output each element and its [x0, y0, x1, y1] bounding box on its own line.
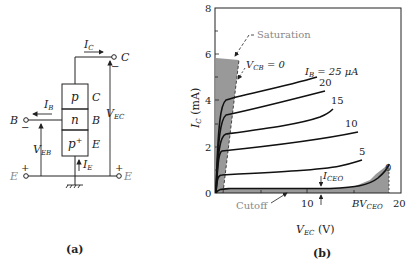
collector-terminal — [112, 55, 117, 60]
iceo-label: ICEO — [322, 170, 343, 183]
emitter-right-terminal — [117, 174, 122, 179]
vcb-zero-label: VCB = 0 — [246, 59, 285, 72]
ground-icon — [66, 185, 83, 188]
cutoff-label: Cutoff — [236, 200, 268, 211]
label-ib-0: 0 — [385, 162, 391, 173]
panel-b-chart: IB = 25 μA 20 15 10 5 0 Saturation VCB =… — [189, 3, 406, 260]
figure: p n p+ C B E C IC − B − IB E E + + IE — [0, 0, 408, 268]
region-e-label: E — [91, 138, 100, 151]
y-axis-label: IC (mA) — [189, 88, 203, 129]
ib-label: IB — [43, 98, 54, 112]
ticks — [215, 31, 354, 193]
panel-a-circuit: p n p+ C B E C IC − B − IB E E + + IE — [9, 38, 132, 256]
collector-label: C — [121, 51, 130, 64]
emitter-left-terminal — [24, 174, 29, 179]
emitter-left-plus: + — [21, 162, 29, 173]
p-label: p — [71, 90, 79, 104]
panel-b-label: (b) — [313, 247, 331, 260]
p-plus-label: p+ — [68, 136, 82, 151]
vec-label: VEC — [106, 107, 125, 121]
region-b-label: B — [91, 114, 100, 127]
panel-a-label: (a) — [66, 243, 84, 256]
label-ib-15: 15 — [331, 95, 344, 106]
collector-minus: − — [111, 61, 119, 72]
ie-label: IE — [82, 158, 92, 172]
label-ib-10: 10 — [345, 118, 358, 129]
vcb-zero-pointer — [238, 68, 245, 79]
cutoff-pointer — [271, 193, 287, 203]
n-label: n — [71, 113, 79, 127]
y-tick-8: 8 — [205, 3, 211, 14]
emitter-right-label: E — [123, 170, 132, 183]
base-minus: − — [21, 122, 29, 133]
y-tick-2: 2 — [205, 142, 211, 153]
bvceo-label: BVCEO — [351, 198, 383, 211]
ic-label: IC — [83, 38, 94, 52]
base-label: B — [9, 114, 18, 127]
label-ib-20: 20 — [319, 77, 332, 88]
region-c-label: C — [92, 91, 101, 104]
x-tick-20: 20 — [393, 198, 406, 209]
y-tick-0: 0 — [205, 188, 211, 199]
emitter-right-plus: + — [115, 162, 123, 173]
saturation-label: Saturation — [257, 29, 311, 40]
curve-ib-15 — [216, 109, 333, 193]
curves — [216, 77, 389, 193]
saturation-pointer — [235, 35, 254, 56]
y-tick-6: 6 — [205, 49, 211, 60]
x-axis-label: VEC (V) — [296, 223, 334, 237]
y-tick-4: 4 — [205, 95, 211, 106]
x-tick-10: 10 — [301, 198, 314, 209]
label-ib-5: 5 — [359, 146, 365, 157]
curve-ib-10 — [216, 132, 358, 193]
emitter-left-label: E — [9, 170, 18, 183]
veb-label: VEB — [33, 143, 51, 157]
